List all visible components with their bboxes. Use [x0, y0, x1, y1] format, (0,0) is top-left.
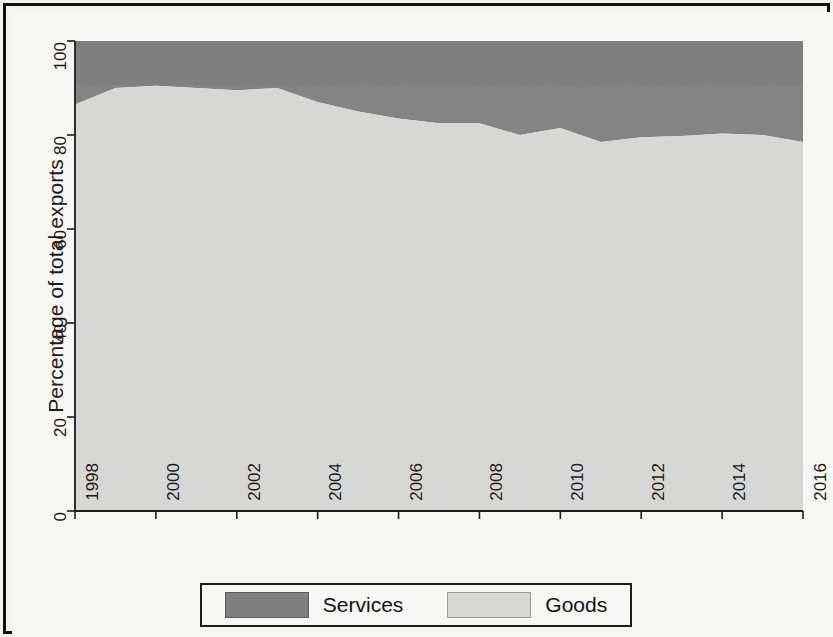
y-tick-label: 0 [51, 512, 71, 572]
y-tick-label: 40 [51, 324, 71, 384]
series-layer [75, 41, 803, 511]
x-tick-label: 2008 [487, 463, 507, 525]
y-tick-label: 60 [51, 230, 71, 290]
x-tick-label: 2002 [245, 463, 265, 525]
x-tick-label: 2014 [730, 463, 750, 525]
legend-entry: Goods [447, 592, 607, 618]
x-tick-label: 1998 [83, 463, 103, 525]
x-tick-label: 2000 [164, 463, 184, 525]
scanned-figure-page: Percentage of total exports 020406080100… [0, 0, 833, 637]
legend-label: Goods [545, 593, 607, 617]
legend-swatch-services [225, 592, 309, 618]
plot-canvas [12, 12, 833, 637]
y-tick-label: 80 [51, 136, 71, 196]
x-tick-label: 2006 [407, 463, 427, 525]
x-tick-label: 2004 [326, 463, 346, 525]
scan-border: Percentage of total exports 020406080100… [3, 3, 830, 634]
x-tick-label: 2012 [649, 463, 669, 525]
stacked-area-chart: Percentage of total exports 020406080100… [12, 12, 833, 637]
x-tick-label: 2016 [811, 463, 831, 525]
legend-entry: Services [225, 592, 404, 618]
legend-swatch-goods [447, 592, 531, 618]
legend-label: Services [323, 593, 404, 617]
area-goods [75, 86, 803, 511]
y-tick-label: 100 [51, 42, 71, 102]
paper-surface: Percentage of total exports 020406080100… [12, 12, 833, 637]
chart-legend: ServicesGoods [200, 583, 632, 627]
y-tick-label: 20 [51, 418, 71, 478]
x-tick-label: 2010 [568, 463, 588, 525]
